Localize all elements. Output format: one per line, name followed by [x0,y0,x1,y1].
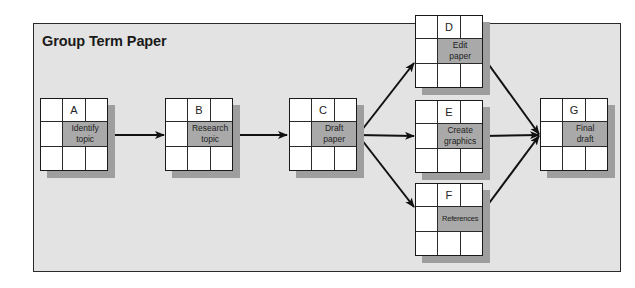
task-line-2: paper [323,134,345,144]
node-id: D [438,16,460,39]
node-grid: G Finaldraft [540,98,608,171]
node-id: C [312,99,334,122]
task-line-1: Draft [325,123,343,133]
task-line-2: graphics [444,136,476,146]
node-b: B Researchtopic [165,98,233,171]
node-grid: C Draftpaper [289,98,357,171]
node-id: E [438,101,460,124]
node-id: A [63,99,85,122]
task-line-1: Identify [71,123,98,133]
node-d: D Editpaper [415,15,483,88]
task-line-1: Create [447,125,473,135]
task-line-2: draft [577,134,594,144]
node-grid: D Editpaper [415,15,483,88]
node-grid: A Identifytopic [40,98,108,171]
node-id: F [438,184,460,207]
task-line-2: topic [76,134,94,144]
node-grid: F References [415,183,483,256]
node-task: Editpaper [438,39,482,63]
node-grid: B Researchtopic [165,98,233,171]
task-line-1: Final [576,123,594,133]
node-task: Creategraphics [438,124,482,148]
task-line-2: paper [449,51,471,61]
node-g: G Finaldraft [540,98,608,171]
task-line-1: References [442,214,478,223]
node-id: G [563,99,585,122]
node-task: Researchtopic [188,122,232,146]
node-a: A Identifytopic [40,98,108,171]
task-line-1: Edit [453,40,468,50]
node-c: C Draftpaper [289,98,357,171]
node-f: F References [415,183,483,256]
task-line-2: topic [201,134,219,144]
node-task: Draftpaper [312,122,356,146]
node-grid: E Creategraphics [415,100,483,173]
panel-title: Group Term Paper [42,33,167,49]
node-id: B [188,99,210,122]
task-line-1: Research [192,123,228,133]
node-task: Finaldraft [563,122,607,146]
node-task: Identifytopic [63,122,107,146]
node-e: E Creategraphics [415,100,483,173]
node-task: References [438,207,482,231]
